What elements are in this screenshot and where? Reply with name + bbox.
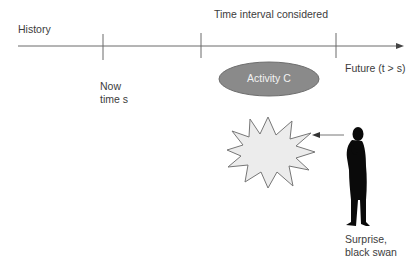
now-label-line1: Now — [100, 80, 128, 93]
now-label-line2: time s — [100, 93, 128, 106]
starburst-icon — [227, 117, 315, 188]
observer-label-line1: Surprise, — [345, 233, 397, 246]
observer-arrowhead-icon — [312, 132, 320, 138]
observer-label-line2: black swan — [345, 246, 397, 259]
interval-label: Time interval considered — [214, 8, 328, 21]
person-silhouette-icon — [346, 127, 370, 226]
history-label: History — [18, 23, 51, 36]
observer-label: Surprise, black swan — [345, 233, 397, 259]
activity-label: Activity C — [247, 72, 291, 84]
now-label: Now time s — [100, 80, 128, 106]
timeline-diagram — [0, 0, 420, 268]
timeline-arrowhead-icon — [396, 43, 404, 49]
future-label: Future (t > s) — [345, 62, 405, 75]
